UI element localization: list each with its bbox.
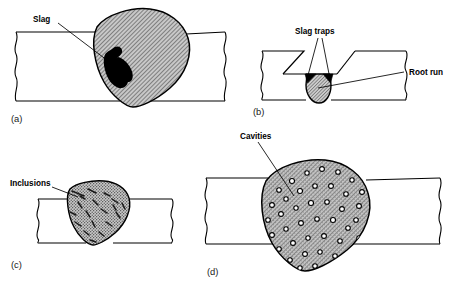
panel-a-label-slag: Slag bbox=[33, 15, 50, 24]
panel-b-caption: (b) bbox=[253, 106, 264, 117]
panel-b-label-root-run: Root run bbox=[409, 68, 443, 77]
welding-defects-figure: Slag (a) Slag traps Root run (b) bbox=[0, 0, 458, 297]
panel-c-label-inclusions: Inclusions bbox=[10, 179, 51, 188]
panel-c-caption: (c) bbox=[11, 259, 22, 270]
figure-canvas: Slag (a) Slag traps Root run (b) bbox=[0, 0, 458, 297]
panel-b-label-slag-traps: Slag traps bbox=[295, 27, 335, 36]
panel-d-caption: (d) bbox=[207, 266, 218, 277]
panel-d-label-cavities: Cavities bbox=[240, 132, 272, 141]
panel-a-caption: (a) bbox=[11, 113, 22, 124]
